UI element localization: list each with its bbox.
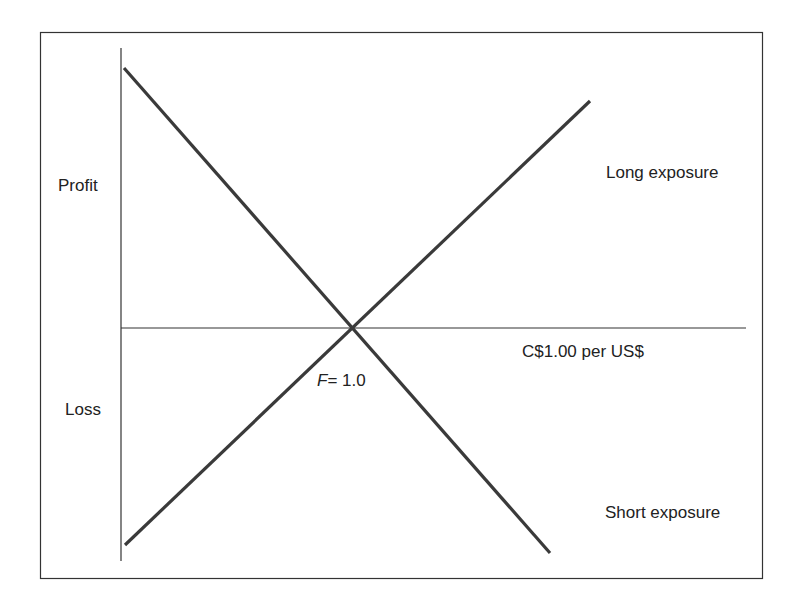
profit-label: Profit <box>58 176 98 195</box>
long-exposure-line <box>125 101 590 545</box>
long-exposure-label: Long exposure <box>606 163 718 182</box>
x-axis-label: C$1.00 per US$ <box>522 342 644 361</box>
loss-label: Loss <box>65 400 101 419</box>
short-exposure-label: Short exposure <box>605 503 720 522</box>
forward-rate-label: F= 1.0 <box>317 371 366 390</box>
short-exposure-line <box>124 68 550 553</box>
payoff-diagram: Profit Loss Long exposure Short exposure… <box>0 0 801 601</box>
frame-border <box>41 33 763 579</box>
forward-rate-value: = 1.0 <box>327 371 365 390</box>
